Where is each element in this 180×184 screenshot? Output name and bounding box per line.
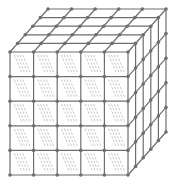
front-node bbox=[8, 124, 12, 128]
front-node bbox=[126, 75, 130, 79]
top-node bbox=[39, 16, 43, 20]
top-node bbox=[102, 24, 106, 28]
top-node bbox=[78, 24, 82, 28]
top-node bbox=[125, 24, 129, 28]
front-node bbox=[79, 149, 83, 153]
top-node bbox=[16, 42, 20, 46]
cube-lattice-diagram bbox=[0, 0, 180, 184]
top-node bbox=[110, 42, 114, 46]
top-node bbox=[63, 42, 67, 46]
top-node bbox=[141, 7, 145, 11]
front-node bbox=[79, 173, 83, 177]
front-node bbox=[32, 75, 36, 79]
front-node bbox=[103, 149, 107, 153]
front-node bbox=[126, 50, 130, 54]
front-node bbox=[55, 99, 59, 103]
top-node bbox=[149, 24, 153, 28]
front-node bbox=[55, 124, 59, 128]
top-node bbox=[71, 33, 75, 37]
top-node bbox=[87, 42, 91, 46]
right-node bbox=[157, 90, 161, 94]
right-node bbox=[164, 81, 168, 85]
front-node bbox=[55, 75, 59, 79]
front-node bbox=[103, 99, 107, 103]
right-node bbox=[141, 107, 145, 111]
front-node bbox=[79, 50, 83, 54]
right-node bbox=[149, 74, 153, 78]
right-node bbox=[141, 131, 145, 135]
top-depth-edge bbox=[104, 9, 142, 52]
front-node bbox=[79, 75, 83, 79]
top-node bbox=[31, 24, 35, 28]
front-node bbox=[8, 75, 12, 79]
front-node bbox=[8, 99, 12, 103]
top-node bbox=[70, 7, 74, 11]
front-node bbox=[126, 124, 130, 128]
front-node bbox=[79, 124, 83, 128]
right-node bbox=[164, 56, 168, 60]
top-node bbox=[134, 42, 138, 46]
front-node bbox=[55, 50, 59, 54]
top-depth-edge bbox=[81, 9, 119, 52]
right-node bbox=[141, 58, 145, 62]
right-depth-edge bbox=[128, 132, 166, 175]
right-node bbox=[149, 98, 153, 102]
right-depth-edge bbox=[128, 58, 166, 101]
front-node bbox=[79, 99, 83, 103]
front-node bbox=[103, 173, 107, 177]
right-node bbox=[134, 140, 138, 144]
front-node bbox=[32, 50, 36, 54]
top-node bbox=[109, 16, 113, 20]
right-node bbox=[134, 91, 138, 95]
front-node bbox=[103, 75, 107, 79]
right-depth-edge bbox=[128, 34, 166, 77]
top-node bbox=[47, 33, 51, 37]
right-node bbox=[134, 66, 138, 70]
front-face-hatching bbox=[14, 55, 125, 172]
top-node bbox=[133, 16, 137, 20]
top-depth-edge bbox=[10, 9, 48, 52]
right-node bbox=[157, 114, 161, 118]
top-node bbox=[141, 33, 145, 37]
front-node bbox=[32, 173, 36, 177]
right-node bbox=[141, 82, 145, 86]
top-node bbox=[46, 7, 50, 11]
front-node bbox=[126, 149, 130, 153]
lattice-nodes bbox=[8, 7, 168, 177]
front-node bbox=[32, 99, 36, 103]
top-node bbox=[62, 16, 66, 20]
front-node bbox=[8, 149, 12, 153]
top-node bbox=[93, 7, 97, 11]
top-node bbox=[157, 16, 161, 20]
top-node bbox=[39, 42, 43, 46]
front-node bbox=[126, 99, 130, 103]
front-node bbox=[55, 149, 59, 153]
right-node bbox=[141, 156, 145, 160]
top-node bbox=[118, 33, 122, 37]
right-node bbox=[164, 32, 168, 36]
top-depth-edge bbox=[57, 9, 95, 52]
right-node bbox=[149, 123, 153, 127]
front-node bbox=[32, 149, 36, 153]
cube-lattice-svg bbox=[0, 0, 180, 184]
front-node bbox=[8, 50, 12, 54]
right-node bbox=[149, 147, 153, 151]
front-node bbox=[103, 50, 107, 54]
top-depth-edge bbox=[34, 9, 72, 52]
right-node bbox=[134, 115, 138, 119]
front-node bbox=[126, 173, 130, 177]
top-node bbox=[55, 24, 59, 28]
right-node bbox=[157, 139, 161, 143]
top-node bbox=[94, 33, 98, 37]
right-node bbox=[164, 130, 168, 134]
top-node bbox=[164, 7, 168, 11]
right-node bbox=[149, 49, 153, 53]
right-depth-edge bbox=[128, 83, 166, 126]
front-node bbox=[55, 173, 59, 177]
right-node bbox=[134, 165, 138, 169]
right-depth-edge bbox=[128, 107, 166, 150]
top-node bbox=[86, 16, 90, 20]
top-node bbox=[117, 7, 121, 11]
top-depth-edge bbox=[128, 9, 166, 52]
front-node bbox=[8, 173, 12, 177]
